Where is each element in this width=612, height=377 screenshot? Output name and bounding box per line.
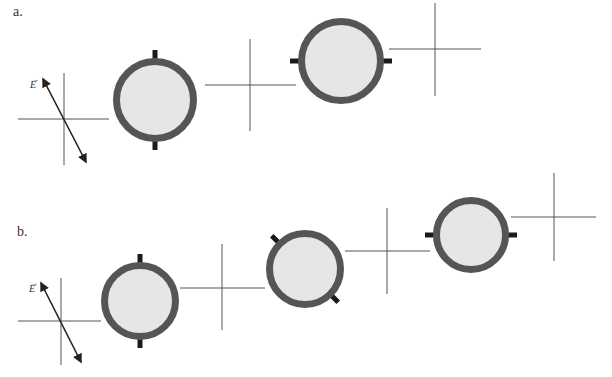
polarizer-disc-a-1 bbox=[302, 22, 381, 101]
polarizer-disc-b-0 bbox=[105, 266, 176, 337]
polarizer-diagram: a. b. → E → E bbox=[0, 0, 612, 377]
diagram-canvas bbox=[0, 0, 612, 377]
polarizer-disc-a-0 bbox=[117, 62, 194, 139]
polarizer-disc-b-2 bbox=[437, 201, 506, 270]
polarizer-disc-b-1 bbox=[270, 234, 341, 305]
